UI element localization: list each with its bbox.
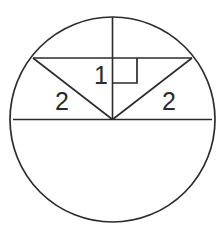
right-angle-marker-icon bbox=[113, 58, 138, 83]
right-leg-line bbox=[113, 58, 193, 120]
geometry-figure: 1 2 2 bbox=[0, 0, 224, 231]
right-leg-label: 2 bbox=[162, 87, 176, 115]
left-leg-label: 2 bbox=[55, 87, 69, 115]
geometry-canvas: 1 2 2 bbox=[0, 0, 224, 231]
height-label: 1 bbox=[94, 61, 108, 89]
